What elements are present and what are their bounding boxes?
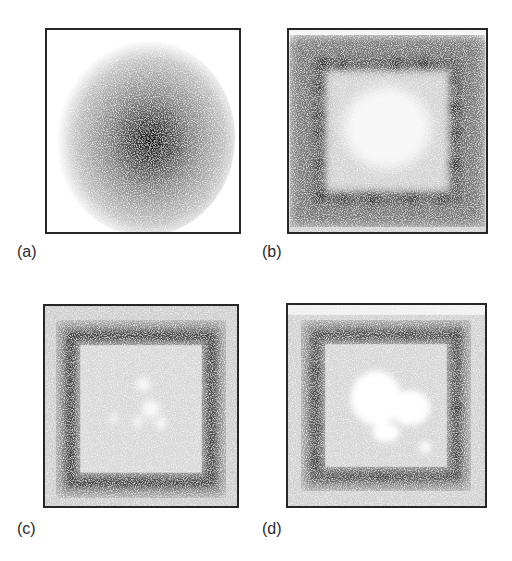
panel-label-d: (d): [262, 521, 282, 537]
panel-d: [286, 303, 487, 508]
spotted-ring-image: [289, 30, 486, 232]
ring-white-center-image: [288, 305, 485, 506]
panel-label-b: (b): [262, 244, 282, 260]
radial-blob-image: [47, 30, 239, 232]
panel-c: [43, 304, 239, 508]
panel-b: [287, 28, 488, 234]
panel-a: [45, 28, 241, 234]
continuous-ring-image: [45, 306, 237, 506]
panel-label-c: (c): [17, 521, 36, 537]
panel-label-a: (a): [17, 244, 37, 260]
